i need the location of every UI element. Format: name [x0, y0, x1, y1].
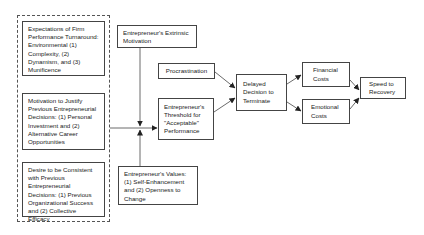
motivation-label: Motivation to Justify Previous Entrepren… — [28, 97, 96, 145]
speed-to-recovery-box: Speed to Recovery — [360, 77, 406, 99]
desire-box: Desire to be Consistent with Previous En… — [22, 162, 105, 217]
expectations-box: Expectations of Firm Performance Turnaro… — [22, 21, 105, 76]
delayed-decision-box: Delayed Decision to Terminate — [236, 74, 287, 111]
speed-to-recovery-label: Speed to Recovery — [369, 80, 397, 96]
expectations-label: Expectations of Firm Performance Turnaro… — [28, 25, 99, 73]
extrinsic-motivation-box: Entrepreneur's Extrinsic Motivation — [117, 25, 197, 48]
threshold-box: Entrepreneur's Threshold for "Acceptable… — [158, 98, 214, 140]
values-label: Entrepreneur's Values: (1) Self-Enhancem… — [124, 170, 186, 202]
threshold-label: Entrepreneur's Threshold for "Acceptable… — [164, 103, 208, 136]
emotional-costs-label: Emotional Costs — [311, 103, 341, 119]
extrinsic-motivation-label: Entrepreneur's Extrinsic Motivation — [123, 29, 189, 44]
procrastination-box: Procrastination — [158, 63, 215, 79]
diagram-canvas: Expectations of Firm Performance Turnaro… — [0, 0, 424, 235]
procrastination-label: Procrastination — [166, 67, 207, 75]
delayed-decision-label: Delayed Decision to Terminate — [243, 80, 280, 105]
values-box: Entrepreneur's Values: (1) Self-Enhancem… — [118, 166, 198, 205]
financial-costs-box: Financial Costs — [302, 62, 350, 87]
desire-label: Desire to be Consistent with Previous En… — [28, 166, 93, 222]
emotional-costs-box: Emotional Costs — [302, 99, 350, 124]
motivation-box: Motivation to Justify Previous Entrepren… — [22, 93, 105, 150]
financial-costs-label: Financial Costs — [313, 66, 339, 82]
